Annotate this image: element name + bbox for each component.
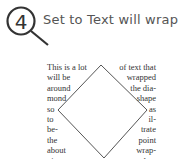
text-line: be- [47,124,87,134]
text-line: will be [47,72,87,82]
text-line: point [119,135,156,145]
text-line: shape [119,93,156,103]
text-line: as [119,104,156,114]
text-line: of text that [119,62,156,72]
wrapped-text-left: This is a lot will be around mond so to … [47,62,87,159]
text-line: around [47,83,87,93]
text-line: trate [119,124,156,134]
text-line: wrapped [119,72,156,82]
text-line: This is a lot [47,62,87,72]
text-line: ping text [47,156,87,159]
text-line: il- [119,114,156,124]
diamond-shape[interactable] [0,0,186,159]
text-line: around an [119,156,156,159]
text-line: the [47,135,87,145]
text-line: mond [47,93,87,103]
text-line: so [47,104,87,114]
text-line: the dia- [119,83,156,93]
text-line: to [47,114,87,124]
wrapped-text-right: of text that wrapped the dia- shape as i… [119,62,156,159]
text-line: wrap- [119,145,156,155]
text-line: about [47,145,87,155]
